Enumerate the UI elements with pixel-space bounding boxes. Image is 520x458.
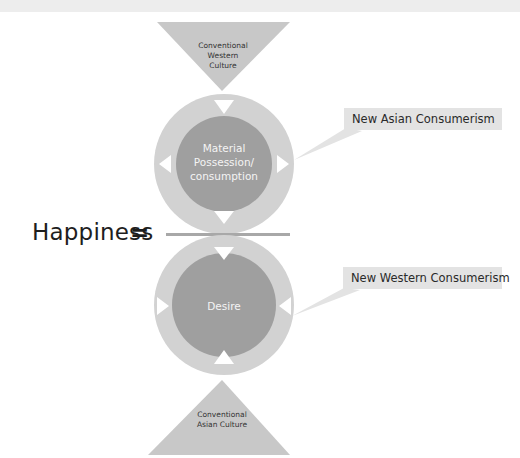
lower-circle-label: Desire (176, 299, 272, 313)
label-line: Conventional (182, 410, 262, 420)
top-triangle-label: Conventional Western Culture (183, 41, 263, 71)
label-line: Asian Culture (182, 420, 262, 430)
label-line: Western (183, 51, 263, 61)
callout-tail (294, 128, 362, 160)
label-line: Culture (183, 61, 263, 71)
label-line: Possession/ (176, 155, 272, 169)
label-line: Desire (176, 299, 272, 313)
upper-circle-label: Material Possession/ consumption (176, 141, 272, 183)
callout-new-asian-consumerism: New Asian Consumerism (344, 108, 502, 130)
label-line: Conventional (183, 41, 263, 51)
bottom-triangle-label: Conventional Asian Culture (182, 410, 262, 430)
label-line: consumption (176, 169, 272, 183)
label-line: Material (176, 141, 272, 155)
callout-new-western-consumerism: New Western Consumerism (343, 267, 502, 289)
callout-tail (292, 288, 360, 316)
equals-sign: = (130, 219, 149, 245)
